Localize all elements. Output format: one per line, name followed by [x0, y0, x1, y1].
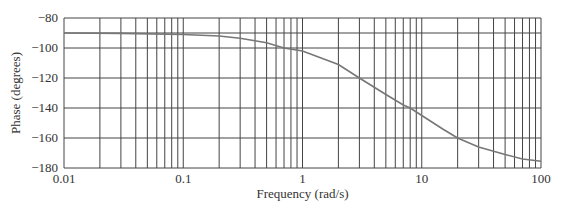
phase-plot: −80−100−120−140−160−1800.010.1110100Freq… — [0, 0, 562, 206]
y-tick-label: −160 — [31, 130, 58, 145]
x-tick-label: 100 — [531, 171, 551, 186]
y-tick-label: −80 — [38, 10, 58, 25]
y-tick-label: −120 — [31, 70, 58, 85]
bode-phase-chart: −80−100−120−140−160−1800.010.1110100Freq… — [0, 0, 562, 206]
x-tick-label: 0.01 — [53, 171, 76, 186]
y-tick-label: −140 — [31, 100, 58, 115]
x-tick-label: 0.1 — [175, 171, 191, 186]
y-axis-label: Phase (degrees) — [8, 52, 23, 134]
x-tick-label: 10 — [415, 171, 428, 186]
y-tick-label: −100 — [31, 40, 58, 55]
x-axis-label: Frequency (rad/s) — [256, 186, 348, 201]
x-tick-label: 1 — [299, 171, 306, 186]
